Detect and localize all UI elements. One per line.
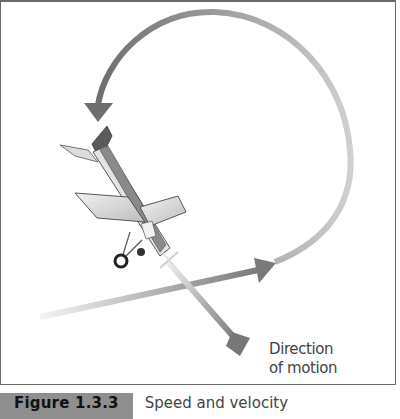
figure-title: Speed and velocity	[133, 393, 288, 412]
figure-caption: Figure 1.3.3 Speed and velocity	[0, 393, 288, 419]
label-line-2: of motion	[269, 359, 337, 378]
flight-path-arrowhead	[254, 258, 276, 283]
label-line-1: Direction	[269, 340, 337, 359]
flight-path-arrow	[40, 270, 258, 317]
direction-of-motion-label: Direction of motion	[269, 340, 337, 378]
loop-path-arrow	[98, 12, 351, 262]
figure-number: Figure 1.3.3	[0, 393, 133, 419]
loop-arrowhead	[84, 103, 113, 122]
airplane-icon	[60, 126, 186, 268]
